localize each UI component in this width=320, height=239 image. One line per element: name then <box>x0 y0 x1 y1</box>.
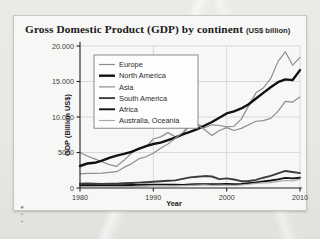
legend-label: South America <box>119 94 168 103</box>
page-corner-marks: ● • • <box>18 204 26 238</box>
corner-dot-1: ● <box>18 204 26 211</box>
chart-legend: EuropeNorth AmericaAsiaSouth AmericaAfri… <box>94 55 198 128</box>
chart-card: Gross Domestic Product (GDP) by continen… <box>13 15 307 211</box>
corner-dot-2: • <box>18 211 26 218</box>
legend-label: Europe <box>119 60 143 69</box>
y-tick-label: 0 <box>70 184 74 193</box>
x-tick-label: 2010 <box>292 193 308 202</box>
x-tick-labels: 1980199020002010 <box>72 193 308 202</box>
legend-label: North America <box>119 71 167 80</box>
plot-area: 0500010.00015.00020.000 1980199020002010… <box>14 16 308 212</box>
legend-label: Australia, Oceania <box>119 116 180 125</box>
series-line-south-america <box>80 171 300 184</box>
corner-dot-3: • <box>18 218 26 225</box>
x-tick-label: 1980 <box>72 193 88 202</box>
y-axis-title: GDP (Billion US$) <box>63 94 72 156</box>
x-axis-title: Year <box>166 199 182 208</box>
y-tick-label: 20.000 <box>52 42 74 51</box>
x-tick-label: 2000 <box>219 193 235 202</box>
y-tick-label: 15.000 <box>52 77 74 86</box>
legend-label: Africa <box>119 105 139 114</box>
gdp-line-chart: 0500010.00015.00020.000 1980199020002010… <box>14 16 308 212</box>
x-tick-label: 1990 <box>145 193 161 202</box>
legend-label: Asia <box>119 83 134 92</box>
